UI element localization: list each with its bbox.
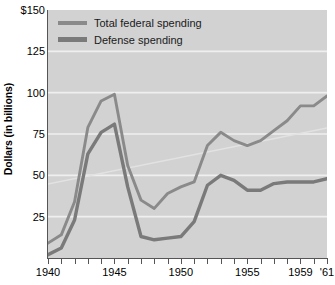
series-line: [48, 94, 327, 243]
x-axis-tick: [141, 259, 142, 264]
x-axis-tick: [168, 259, 169, 264]
x-axis-tick-label: 1950: [169, 266, 193, 278]
y-axis-tick-labels: $150125100755025: [0, 0, 45, 285]
legend-item-label: Defense spending: [94, 34, 183, 46]
y-axis-line: [47, 10, 48, 259]
x-axis-tick: [154, 259, 155, 264]
x-axis-tick: [327, 259, 328, 264]
x-axis-tick-label: 1940: [36, 266, 60, 278]
y-axis-tick-label: 100: [1, 87, 45, 99]
chart-legend: Total federal spending Defense spending: [58, 14, 258, 48]
x-axis-tick: [181, 259, 182, 264]
x-axis-tick-label: 1959: [288, 266, 312, 278]
x-axis-tick: [61, 259, 62, 264]
x-axis-tick: [207, 259, 208, 264]
spending-line-chart: Dollars (in billions) $150125100755025 1…: [0, 0, 335, 285]
x-axis-tick: [75, 259, 76, 264]
legend-swatch-icon: [58, 21, 87, 25]
series-line: [48, 124, 327, 255]
y-axis-tick-label: 125: [1, 45, 45, 57]
y-axis-tick-label: 25: [1, 211, 45, 223]
x-axis-tick: [287, 259, 288, 264]
legend-swatch-icon: [58, 37, 87, 42]
x-axis-tick-label: '61: [320, 266, 334, 278]
x-axis-ticks: [0, 259, 335, 265]
x-axis-tick: [221, 259, 222, 264]
x-axis-tick: [88, 259, 89, 264]
x-axis-tick-label: 1945: [102, 266, 126, 278]
x-axis-tick-label: 1955: [235, 266, 259, 278]
x-axis-tick-labels: 19401945195019551959'61: [0, 266, 335, 282]
y-axis-tick-label: 50: [1, 169, 45, 181]
legend-item-label: Total federal spending: [94, 17, 202, 29]
x-axis-tick: [261, 259, 262, 264]
y-axis-tick-label: 75: [1, 128, 45, 140]
x-axis-tick: [247, 259, 248, 264]
x-axis-tick: [114, 259, 115, 264]
x-axis-tick: [48, 259, 49, 264]
x-axis-tick: [274, 259, 275, 264]
x-axis-tick: [128, 259, 129, 264]
y-axis-tick-label: $150: [1, 4, 45, 16]
legend-item-total-federal-spending: Total federal spending: [58, 14, 258, 31]
legend-item-defense-spending: Defense spending: [58, 31, 258, 48]
x-axis-tick: [194, 259, 195, 264]
x-axis-tick: [300, 259, 301, 264]
x-axis-tick: [101, 259, 102, 264]
x-axis-tick: [234, 259, 235, 264]
x-axis-tick: [314, 259, 315, 264]
